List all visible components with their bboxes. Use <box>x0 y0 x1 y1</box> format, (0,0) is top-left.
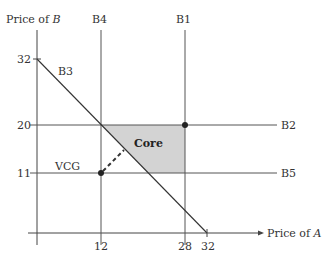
y-axis-label: Price of B <box>6 13 61 26</box>
core-diagram: Price of B Price of A B4 B1 B3 B2 B5 Cor… <box>0 0 336 260</box>
vcg-point <box>98 170 104 176</box>
label-b1: B1 <box>176 13 191 26</box>
label-b5: B5 <box>281 167 296 180</box>
x-axis-label: Price of A <box>267 227 322 240</box>
label-b2: B2 <box>281 119 296 132</box>
tick-label-y-11: 11 <box>17 167 31 180</box>
tick-label-x-12: 12 <box>94 240 108 253</box>
vcg-label: VCG <box>54 160 80 173</box>
x-axis-arrow-icon <box>258 231 264 236</box>
tick-label-y-20: 20 <box>17 119 31 132</box>
label-b3: B3 <box>58 65 73 78</box>
label-b4: B4 <box>92 13 107 26</box>
tick-label-x-28: 28 <box>178 240 192 253</box>
tick-label-y-32: 32 <box>17 53 31 66</box>
tick-label-x-32: 32 <box>201 240 215 253</box>
core-label: Core <box>134 137 163 150</box>
vcg-to-core-dashed-line <box>103 150 124 171</box>
b1-b2-point <box>182 122 188 128</box>
